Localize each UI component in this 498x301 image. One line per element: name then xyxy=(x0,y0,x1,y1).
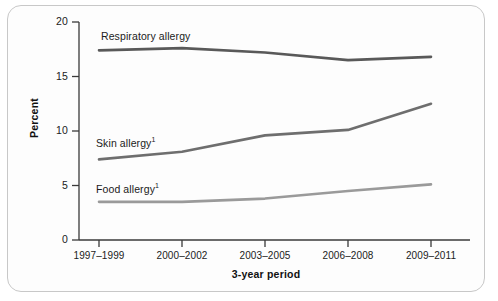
x-tick-label-1997-1999: 1997–1999 xyxy=(57,250,141,261)
y-axis-title: Percent xyxy=(28,78,40,158)
series-label-skin-text: Skin allergy xyxy=(96,137,151,149)
y-axis-ticks xyxy=(72,22,79,240)
series-label-respiratory-text: Respiratory allergy xyxy=(101,30,190,42)
y-tick-label-15: 15 xyxy=(42,70,68,82)
axis-lines xyxy=(79,22,470,240)
y-tick-label-20: 20 xyxy=(42,15,68,27)
series-label-respiratory-allergy: Respiratory allergy xyxy=(101,30,190,42)
series-label-skin-footnote: 1 xyxy=(151,136,155,143)
series-line-respiratory-allergy xyxy=(99,48,431,60)
series-label-skin-allergy: Skin allergy1 xyxy=(96,136,155,149)
x-axis-title: 3-year period xyxy=(99,268,433,280)
x-tick-label-2006-2008: 2006–2008 xyxy=(306,250,390,261)
series-label-food-allergy: Food allergy1 xyxy=(96,182,159,195)
series-label-food-text: Food allergy xyxy=(96,183,155,195)
x-axis-ticks xyxy=(99,240,431,247)
y-tick-label-10: 10 xyxy=(42,124,68,136)
data-series xyxy=(99,48,431,202)
x-tick-label-2009-2011: 2009–2011 xyxy=(389,250,473,261)
line-chart: Percent 3-year period 20 15 10 5 0 1997–… xyxy=(0,0,498,301)
y-tick-label-5: 5 xyxy=(42,179,68,191)
series-line-skin-allergy xyxy=(99,104,431,160)
x-tick-label-2003-2005: 2003–2005 xyxy=(223,250,307,261)
x-tick-label-2000-2002: 2000–2002 xyxy=(140,250,224,261)
y-tick-label-0: 0 xyxy=(42,233,68,245)
series-label-food-footnote: 1 xyxy=(155,182,159,189)
